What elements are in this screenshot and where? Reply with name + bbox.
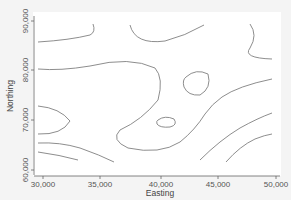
y-tick-label: 80,000 [21,57,30,82]
x-tick-label: 45,000 [206,180,231,189]
x-tick-label: 35,000 [88,180,113,189]
y-axis-title: Northing [5,80,15,112]
x-axis-title: Easting [146,188,175,198]
y-tick-label: 60,000 [21,157,30,182]
x-tick-label: 30,000 [31,180,56,189]
plot-area [33,12,281,176]
y-axis-ticks: 90,00080,00070,00060,000 [21,8,34,182]
y-tick-label: 70,000 [21,107,30,132]
x-tick-label: 50,000 [264,180,289,189]
contour-chart: 30,00035,00040,00045,00050,000 90,00080,… [0,0,291,200]
y-tick-label: 90,000 [21,8,30,33]
